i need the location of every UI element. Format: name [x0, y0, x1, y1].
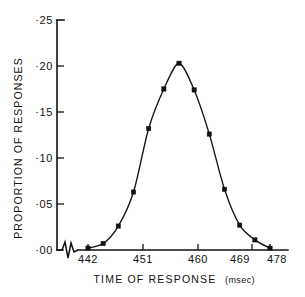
data-point-marker	[268, 246, 272, 250]
data-point-marker	[253, 238, 257, 242]
x-tick-label-3: 469	[230, 253, 250, 265]
x-tick-label-0: 442	[78, 253, 98, 265]
x-axis-unit: (msec)	[225, 275, 255, 285]
x-tick-marks	[88, 244, 270, 250]
data-point-marker	[86, 246, 90, 250]
distribution-curve	[88, 63, 270, 248]
data-point-marker	[162, 87, 166, 91]
data-point-marker	[192, 88, 196, 92]
data-point-marker	[222, 187, 226, 191]
y-tick-labels: ·00 ·05 ·10 ·15 ·20 ·25	[35, 14, 53, 256]
y-tick-label-5: ·25	[35, 14, 53, 26]
data-point-marker	[101, 241, 105, 245]
data-series-group	[86, 61, 272, 250]
data-point-marker	[146, 126, 150, 130]
x-axis-title: TIME OF RESPONSE	[93, 273, 216, 285]
x-tick-label-4: 478	[267, 253, 287, 265]
axes-group	[57, 20, 288, 258]
x-tick-labels: 442 451 460 469 478	[78, 253, 287, 265]
y-tick-label-0: ·00	[35, 244, 53, 256]
x-axis-break-icon	[62, 242, 78, 258]
x-tick-label-1: 451	[133, 253, 153, 265]
y-tick-label-4: ·20	[35, 60, 53, 72]
chart-figure: ·00 ·05 ·10 ·15 ·20 ·25 442 451 460 469 …	[0, 0, 305, 297]
data-point-marker	[116, 224, 120, 228]
data-point-marker	[237, 223, 241, 227]
y-axis-title: PROPORTION OF RESPONSES	[12, 57, 24, 238]
data-point-marker	[177, 61, 181, 65]
y-tick-label-3: ·15	[35, 106, 53, 118]
y-tick-label-1: ·05	[35, 198, 53, 210]
y-tick-label-2: ·10	[35, 152, 53, 164]
data-point-marker	[207, 132, 211, 136]
data-point-marker	[131, 190, 135, 194]
data-point-markers	[86, 61, 272, 250]
y-tick-marks	[57, 66, 64, 250]
response-time-distribution-chart: ·00 ·05 ·10 ·15 ·20 ·25 442 451 460 469 …	[0, 0, 305, 297]
x-tick-label-2: 460	[188, 253, 208, 265]
